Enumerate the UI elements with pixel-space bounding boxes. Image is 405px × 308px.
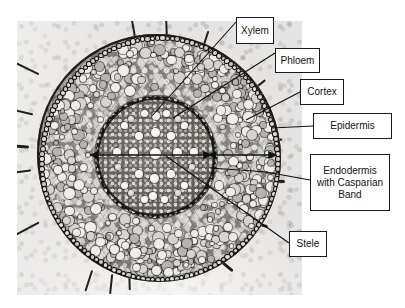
epidermis-cell [41,177,45,181]
epidermis-cell [117,44,121,48]
epidermis-cell [195,272,198,275]
epidermis-cell [58,95,62,99]
epidermis-cell [126,41,130,45]
label-endodermis[interactable]: Endodermis with Casparian Band [310,154,390,211]
epidermis-cell [136,39,139,42]
epidermis-cell [245,239,248,242]
epidermis-cell [274,187,277,190]
epidermis-cell [181,39,184,42]
epidermis-cell [185,40,189,44]
epidermis-cell [265,108,269,112]
label-epidermis[interactable]: Epidermis [313,113,392,139]
epidermis-cell [61,91,65,95]
epidermis-cell [276,157,279,160]
epidermis-cell [84,66,87,69]
epidermis-cell [44,192,48,196]
epidermis-cell [108,49,111,52]
epidermis-cell [56,219,60,223]
epidermis-cell [41,173,44,176]
epidermis-cell [261,100,264,103]
epidermis-cell-beads [38,35,280,281]
epidermis-cell [267,206,271,210]
epidermis-cell [222,57,225,60]
epidermis-cell [156,278,160,281]
epidermis-cell [272,192,276,196]
root-cross-section [37,34,281,282]
epidermis-cell [141,277,145,281]
epidermis-cell [69,79,73,83]
epidermis-cell [252,231,256,235]
epidermis-cell [75,242,79,246]
epidermis-cell [141,37,145,41]
epidermis-cell [233,66,236,69]
epidermis-cell [131,275,135,279]
epidermis-cell [244,76,247,79]
epidermis-cell [200,45,204,49]
epidermis-cell [64,87,67,90]
epidermis-cell [67,83,71,87]
epidermis-cell [68,235,72,239]
epidermis-cell [45,127,48,130]
label-stele[interactable]: Stele [289,231,327,257]
epidermis-cell [275,147,279,151]
epidermis-cell [62,227,65,230]
epidermis-cell [270,122,274,126]
epidermis-cell [91,255,95,259]
epidermis-cell [209,266,212,269]
epidermis-cell [72,239,75,242]
label-cortex[interactable]: Cortex [300,79,344,105]
epidermis-cell [185,274,189,278]
epidermis-cell [99,54,103,58]
epidermis-cell [274,137,278,141]
epidermis-cell [166,37,169,40]
epidermis-cell [48,202,51,205]
epidermis-cell [87,62,91,66]
epidermis-cell [267,113,270,116]
epidermis-cell [204,268,208,272]
epidermis-cell [151,37,154,40]
epidermis-cell [199,270,203,274]
epidermis-cell [112,47,116,51]
micrograph-plate [17,21,302,295]
epidermis-cell [46,122,50,126]
epidermis-cell [269,118,273,122]
label-phloem[interactable]: Phloem [275,48,320,73]
epidermis-cell [156,36,160,40]
figure-root-cross-section: Xylem Phloem Cortex Epidermis Endodermis… [0,0,405,308]
epidermis-cell [161,278,165,281]
epidermis-cell [253,87,256,90]
epidermis-cell [42,142,45,145]
epidermis-cell [79,69,83,73]
epidermis-cell [230,252,234,256]
epidermis-cell [190,41,194,45]
epidermis-cell [146,278,150,281]
epidermis-cell [131,39,135,43]
epidermis-cell [41,147,45,151]
label-xylem[interactable]: Xylem [236,17,274,44]
epidermis-cell [273,132,277,136]
epidermis-cell [160,36,164,40]
epidermis-cell [59,223,63,227]
epidermis-cell [255,227,258,230]
epidermis-cell [222,258,225,261]
epidermis-cell [272,127,275,130]
epidermis-cell [103,51,107,55]
epidermis-cell [175,37,179,41]
epidermis-cell [217,54,221,58]
epidermis-cell [263,104,267,108]
epidermis-cell [276,167,280,171]
epidermis-cell [213,51,217,55]
epidermis-cell [49,206,53,210]
epidermis-cell [40,167,44,171]
epidermis-cell [43,132,47,136]
epidermis-cell [171,37,175,41]
epidermis-cell [104,263,108,267]
epidermis-cell [73,76,76,79]
epidermis-cell [275,177,279,181]
epidermis-cell [50,113,53,116]
epidermis-cell [126,273,130,277]
epidermis-cell [56,100,59,103]
epidermis-cell [275,142,278,145]
epidermis-cell [122,272,125,275]
epidermis-cell [241,242,245,246]
